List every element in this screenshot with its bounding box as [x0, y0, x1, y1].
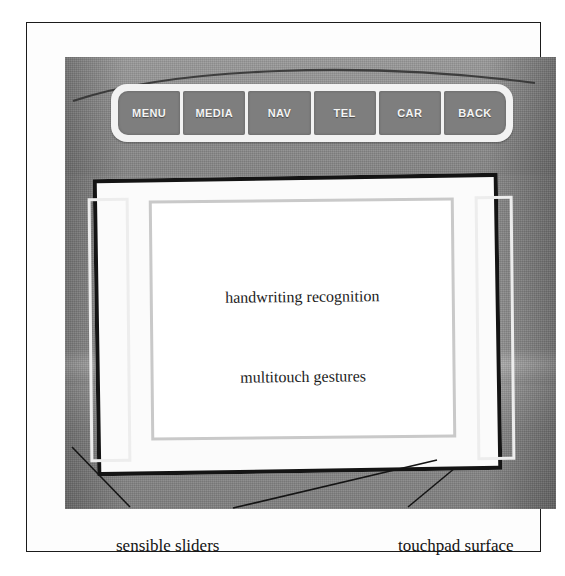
figure-outer-border: MENU MEDIA NAV TEL CAR BACK handwriting … — [26, 22, 541, 552]
button-nav[interactable]: NAV — [248, 91, 310, 135]
left-sensible-slider[interactable] — [88, 198, 132, 462]
caption-sensible-sliders: sensible sliders — [116, 536, 219, 556]
hmi-button-bar: MENU MEDIA NAV TEL CAR BACK — [111, 84, 513, 142]
right-sensible-slider[interactable] — [475, 196, 516, 460]
figure-root: MENU MEDIA NAV TEL CAR BACK handwriting … — [0, 0, 565, 576]
button-back[interactable]: BACK — [444, 91, 506, 135]
button-menu[interactable]: MENU — [118, 91, 180, 135]
label-multitouch-gestures: multitouch gestures — [154, 366, 453, 387]
button-bar-inner: MENU MEDIA NAV TEL CAR BACK — [118, 91, 506, 135]
button-tel[interactable]: TEL — [314, 91, 376, 135]
button-media[interactable]: MEDIA — [183, 91, 245, 135]
label-handwriting-recognition: handwriting recognition — [153, 286, 452, 307]
button-car[interactable]: CAR — [379, 91, 441, 135]
touchpad-content-area[interactable]: handwriting recognition multitouch gestu… — [149, 197, 456, 440]
caption-touchpad-surface: touchpad surface — [398, 536, 514, 556]
dashboard-photo-panel: MENU MEDIA NAV TEL CAR BACK handwriting … — [65, 57, 556, 509]
